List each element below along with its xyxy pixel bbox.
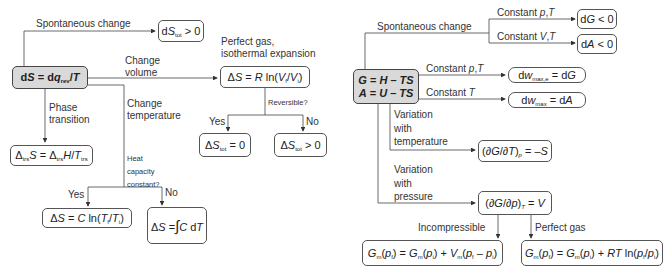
constant-capacity-box: ΔS = C ln(Tf/Ti) bbox=[42, 208, 132, 228]
phase-transition-box: ΔtrsS = ΔtrsH/Ttrs bbox=[10, 145, 93, 166]
label-change-volume: Change volume bbox=[125, 55, 160, 79]
max-nonexpansion-work-box: dwmax,e = dG bbox=[508, 67, 586, 83]
dstot-zero-box: ΔStot = 0 bbox=[199, 133, 251, 157]
label-yes-capacity: Yes bbox=[68, 189, 84, 201]
label-no-capacity: No bbox=[165, 187, 178, 199]
label-incompressible: Incompressible bbox=[418, 222, 485, 234]
variable-capacity-box: ΔS =∫C dT bbox=[147, 207, 207, 244]
dG-negative-box: dG < 0 bbox=[577, 9, 617, 29]
perfect-gas-expansion-box: ΔS = R ln(Vf/Vi) bbox=[220, 66, 310, 88]
label-constant-T: Constant T bbox=[426, 87, 475, 99]
dA-negative-box: dA < 0 bbox=[577, 34, 617, 54]
label-yes-reversible: Yes bbox=[209, 116, 225, 128]
label-reversible: Reversible? bbox=[268, 98, 308, 108]
incompressible-equation-box: Gm(pf) = Gm(pi) + Vm(pf – pi) bbox=[362, 240, 503, 266]
entropy-definition-box: dS = dqrev/T bbox=[12, 66, 88, 89]
label-change-temperature: Change temperature bbox=[127, 98, 181, 122]
connector-lines bbox=[0, 0, 672, 280]
label-spontaneous-right: Spontaneous change bbox=[377, 21, 472, 33]
label-perfect-gas-right: Perfect gas bbox=[535, 222, 586, 234]
label-constant-pT: Constant p,T bbox=[426, 63, 483, 75]
label-variation-temperature: Variation with temperature bbox=[394, 108, 448, 149]
dGdp-box: (∂G/∂p)T = V bbox=[478, 191, 552, 215]
perfect-gas-equation-box: Gm(pf) = Gm(pi) + RT ln(pf/pi) bbox=[521, 240, 663, 266]
label-variation-pressure: Variation with pressure bbox=[394, 163, 433, 204]
label-no-reversible: No bbox=[306, 116, 319, 128]
label-phase-transition: Phase transition bbox=[49, 102, 90, 126]
gibbs-helmholtz-box: G = H – TS A = U – TS bbox=[353, 69, 419, 104]
dstot-gt-zero-box: ΔStot > 0 bbox=[274, 133, 327, 157]
label-constant-VT: Constant V,T bbox=[497, 31, 555, 43]
max-work-box: dwmax = dA bbox=[508, 92, 586, 108]
label-constant-pT-top: Constant p,T bbox=[497, 7, 554, 19]
label-perfect-gas-expansion: Perfect gas, isothermal expansion bbox=[221, 36, 316, 60]
dstot-positive-box: dStot > 0 bbox=[158, 20, 204, 42]
label-spontaneous-left: Spontaneous change bbox=[36, 18, 131, 30]
label-heat-capacity: Heat capacity constant? bbox=[127, 152, 160, 191]
dGdT-box: (∂G/∂T)p = –S bbox=[478, 140, 552, 162]
